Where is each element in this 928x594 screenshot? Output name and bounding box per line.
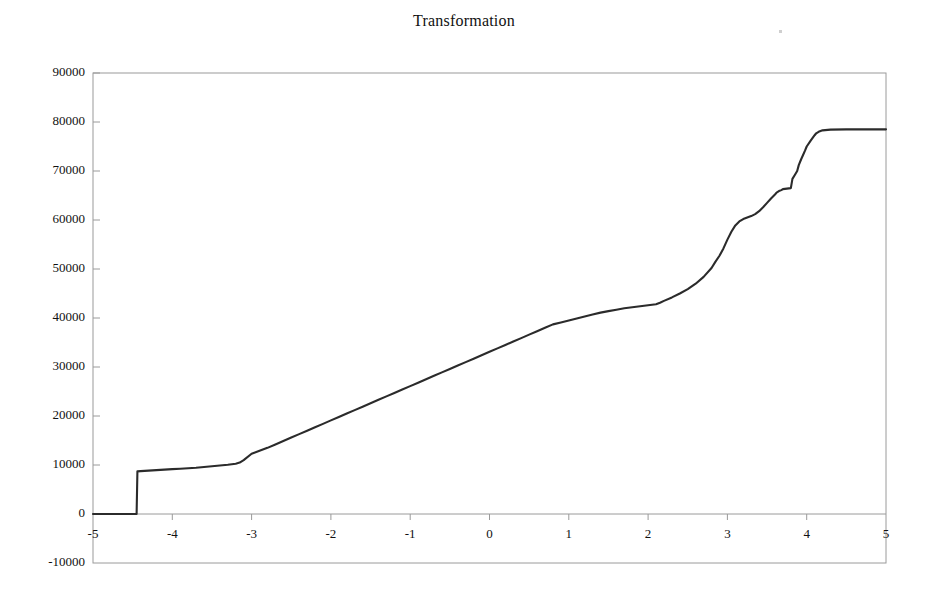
y-tick-label: 50000 (25, 260, 85, 276)
y-tick-label: 10000 (25, 456, 85, 472)
y-tick-label: -10000 (25, 554, 85, 570)
chart-figure: Transformation -100000100002000030000400… (0, 0, 928, 594)
x-tick-label: -3 (232, 526, 272, 542)
x-tick-label: -4 (152, 526, 192, 542)
y-tick-label: 90000 (25, 64, 85, 80)
plot-area (0, 0, 928, 594)
data-series-line (93, 129, 886, 514)
x-tick-label: -5 (73, 526, 113, 542)
x-tick-label: -1 (390, 526, 430, 542)
x-tick-label: 3 (707, 526, 747, 542)
x-tick-label: 0 (470, 526, 510, 542)
x-tick-label: 2 (628, 526, 668, 542)
y-tick-label: 30000 (25, 358, 85, 374)
x-tick-label: 1 (549, 526, 589, 542)
y-tick-label: 0 (25, 505, 85, 521)
y-tick-label: 20000 (25, 407, 85, 423)
y-tick-label: 70000 (25, 162, 85, 178)
x-tick-label: 5 (866, 526, 906, 542)
x-tick-label: -2 (311, 526, 351, 542)
x-axis-ticks (172, 514, 806, 520)
y-axis-ticks (93, 73, 100, 514)
y-tick-label: 60000 (25, 211, 85, 227)
x-tick-label: 4 (787, 526, 827, 542)
y-tick-label: 80000 (25, 113, 85, 129)
plot-frame (93, 73, 886, 563)
y-tick-label: 40000 (25, 309, 85, 325)
